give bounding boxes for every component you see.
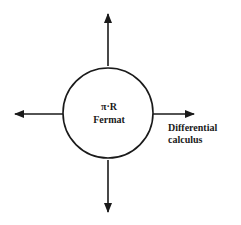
right-arrow-label-line1: Differential bbox=[168, 122, 217, 133]
right-arrow-label-line2: calculus bbox=[168, 134, 203, 145]
center-name-text: Fermat bbox=[93, 114, 125, 125]
fermat-diagram: π·R Fermat Differential calculus bbox=[0, 0, 241, 225]
center-symbol-text: π·R bbox=[101, 101, 118, 112]
center-circle bbox=[63, 68, 153, 158]
